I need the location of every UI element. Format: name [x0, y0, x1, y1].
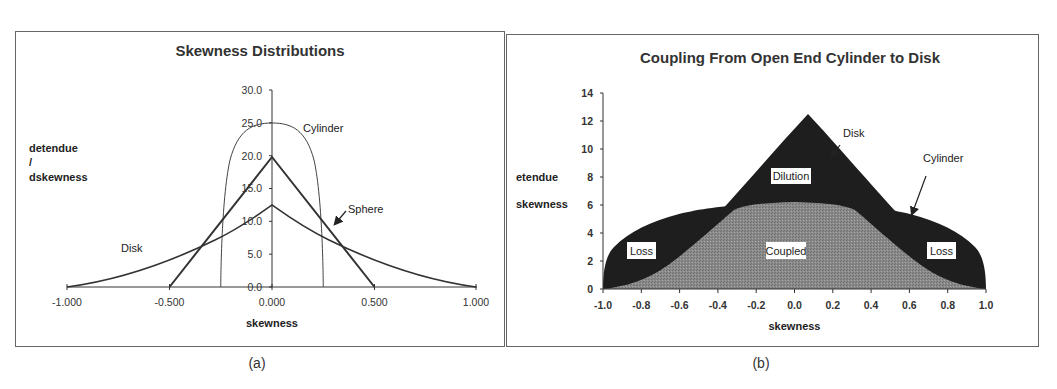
b-xtick: -0.8 [632, 299, 650, 311]
a-xtick: 1.000 [463, 296, 489, 308]
b-ytick: 10 [581, 143, 593, 155]
svg-text:Loss: Loss [930, 245, 954, 257]
caption-b: (b) [752, 355, 769, 371]
a-ylabel-line2: / [29, 156, 32, 168]
b-xtick: -0.6 [671, 299, 689, 311]
b-xtick: -0.2 [747, 299, 765, 311]
b-xtick: -1.0 [594, 299, 612, 311]
a-label-disk: Disk [121, 242, 143, 254]
chart-a-title: Skewness Distributions [175, 42, 344, 59]
caption-a: (a) [248, 355, 265, 371]
a-ytick: 10.0 [242, 215, 263, 227]
b-region-loss-right: Loss [927, 242, 956, 259]
b-label-cylinder: Cylinder [923, 152, 964, 164]
b-xtick: -0.4 [709, 299, 727, 311]
figure: Skewness Distributions detendue / dskewn… [0, 0, 1057, 389]
b-region-loss-left: Loss [627, 242, 656, 259]
b-ytick: 6 [587, 199, 593, 211]
b-xtick: 0.4 [864, 299, 879, 311]
b-ytick: 14 [581, 87, 593, 99]
b-label-disk: Disk [843, 127, 865, 139]
b-xtick: 0.2 [825, 299, 840, 311]
a-xlabel: skewness [246, 317, 298, 329]
chart-b-title: Coupling From Open End Cylinder to Disk [640, 49, 941, 66]
a-xtick: -1.000 [52, 296, 82, 308]
a-label-sphere: Sphere [348, 203, 383, 215]
b-ylabel-line2: skewness [516, 198, 568, 210]
svg-text:Loss: Loss [630, 245, 654, 257]
a-ylabel-line1: detendue [29, 142, 78, 154]
chart-panel-a: Skewness Distributions detendue / dskewn… [16, 32, 505, 347]
b-region-dilution: Dilution [771, 168, 811, 184]
a-ytick: 0.0 [247, 281, 262, 293]
chart-panel-b: Coupling From Open End Cylinder to Disk … [507, 35, 1039, 347]
a-label-cylinder: Cylinder [303, 122, 344, 134]
b-xtick: 0.6 [902, 299, 917, 311]
b-ytick: 12 [581, 115, 593, 127]
b-ytick: 4 [587, 227, 593, 239]
b-region-coupled: Coupled [766, 242, 807, 259]
a-ytick: 20.0 [242, 150, 263, 162]
a-ylabel-line3: dskewness [29, 171, 88, 183]
svg-text:Coupled: Coupled [766, 245, 807, 257]
a-xtick: -0.500 [155, 296, 185, 308]
a-ytick: 5.0 [247, 248, 262, 260]
a-xtick: 0.000 [259, 296, 285, 308]
a-xtick: 0.500 [361, 296, 387, 308]
b-ytick: 2 [587, 255, 593, 267]
b-xtick: 1.0 [979, 299, 994, 311]
b-xtick: 0.0 [787, 299, 802, 311]
b-ytick: 0 [587, 283, 593, 295]
b-xtick: 0.8 [940, 299, 955, 311]
a-ytick: 30.0 [242, 84, 263, 96]
b-ylabel-line1: etendue [516, 171, 558, 183]
b-ytick: 8 [587, 171, 593, 183]
svg-text:Dilution: Dilution [773, 170, 810, 182]
b-xlabel: skewness [769, 320, 821, 332]
